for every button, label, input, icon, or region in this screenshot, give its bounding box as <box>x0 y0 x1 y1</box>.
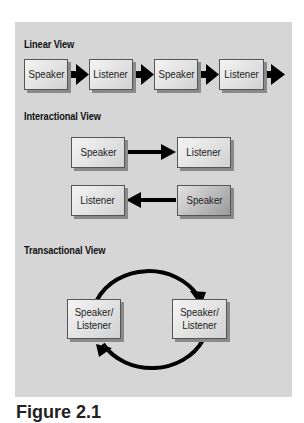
linear-node-speaker-1: Speaker <box>24 59 68 90</box>
transactional-view-heading: Transactional View <box>24 244 105 256</box>
interactional-listener-1: Listener <box>177 137 231 168</box>
node-label: Listener <box>187 146 221 159</box>
node-label: Speaker <box>186 194 222 207</box>
linear-node-speaker-2: Speaker <box>154 59 198 90</box>
node-label: Listener <box>94 68 128 81</box>
interactional-speaker-2: Speaker <box>177 185 231 216</box>
node-label: Speaker <box>28 68 64 81</box>
node-label: Speaker/ Listener <box>176 306 223 332</box>
linear-node-listener-2: Listener <box>219 59 264 90</box>
node-label: Speaker/ Listener <box>71 306 117 332</box>
node-label: Speaker <box>158 68 194 81</box>
node-label: Listener <box>81 194 115 207</box>
transactional-node-right: Speaker/ Listener <box>172 299 227 339</box>
interactional-listener-2: Listener <box>71 185 125 216</box>
linear-view-heading: Linear View <box>24 38 74 50</box>
node-label: Listener <box>224 68 258 81</box>
figure-caption: Figure 2.1 <box>16 402 101 423</box>
interactional-view-heading: Interactional View <box>24 110 101 122</box>
transactional-node-left: Speaker/ Listener <box>67 299 121 339</box>
node-label: Speaker <box>80 146 116 159</box>
interactional-arrows <box>124 144 176 208</box>
linear-node-listener-1: Listener <box>89 59 133 90</box>
interactional-speaker-1: Speaker <box>71 137 125 168</box>
